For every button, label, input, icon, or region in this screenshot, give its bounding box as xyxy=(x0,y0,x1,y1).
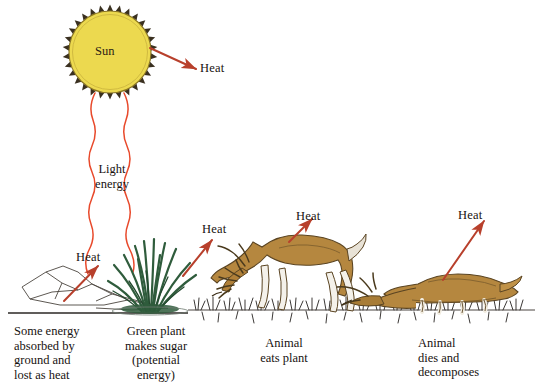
caption-plant-line-2: makes sugar xyxy=(125,339,187,353)
caption-decomposition: Animaldies anddecomposes xyxy=(418,336,528,380)
sun-label: Sun xyxy=(95,44,114,59)
caption-plant-line-3: (potential xyxy=(132,353,180,367)
caption-decomposition-line-1: Animal xyxy=(418,336,456,350)
caption-herbivore: Animaleats plant xyxy=(234,336,334,365)
light-energy-line-2: energy xyxy=(95,177,129,191)
caption-plant: Green plantmakes sugar(potentialenergy) xyxy=(110,324,202,382)
caption-ground-line-1: Some energy xyxy=(14,324,79,338)
caption-ground-line-3: ground and xyxy=(14,353,71,367)
heat-label-deer: Heat xyxy=(296,209,320,224)
heat-label-sun: Heat xyxy=(200,61,224,76)
caption-plant-line-1: Green plant xyxy=(127,324,186,338)
caption-decomposition-line-3: decomposes xyxy=(418,365,479,379)
light-energy-label: Lightenergy xyxy=(86,162,138,192)
heat-label-ground: Heat xyxy=(76,250,100,265)
caption-ground-line-2: absorbed by xyxy=(14,339,75,353)
light-energy-line-1: Light xyxy=(98,162,125,176)
heat-label-plant: Heat xyxy=(202,222,226,237)
caption-plant-line-4: energy) xyxy=(137,368,175,382)
caption-herbivore-line-2: eats plant xyxy=(260,351,308,365)
heat-label-dead: Heat xyxy=(458,208,482,223)
caption-decomposition-line-2: dies and xyxy=(418,351,459,365)
caption-ground-line-4: lost as heat xyxy=(14,368,70,382)
caption-herbivore-line-1: Animal xyxy=(265,336,303,350)
